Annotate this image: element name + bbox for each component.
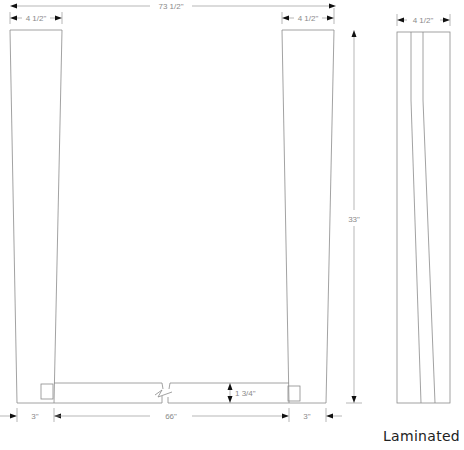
side-view-width-dimension: 4 1/2": [397, 14, 450, 26]
arrow-left-icon: [282, 16, 289, 21]
side-view-width-label: 4 1/2": [413, 16, 434, 25]
arrow-right-icon: [327, 16, 334, 21]
height-dimension: 33": [346, 30, 362, 403]
stretcher-thickness-dimension: 1 3/4": [228, 383, 256, 403]
right-leg-top-label: 4 1/2": [298, 14, 319, 23]
arrow-left-icon: [10, 4, 17, 9]
overall-width-dimension: 73 1/2": [10, 2, 336, 11]
arrow-up-icon: [352, 30, 357, 37]
break-symbol: [155, 390, 172, 397]
left-leg: [10, 30, 62, 403]
left-leg-top-dimension: 4 1/2": [10, 12, 62, 24]
arrow-left-icon: [397, 18, 404, 23]
drawing-caption: Laminated: [383, 428, 460, 444]
arrow-down-icon: [352, 396, 357, 403]
left-leg-top-label: 4 1/2": [26, 14, 47, 23]
arrow-right-icon: [282, 414, 289, 419]
arrow-right-icon: [329, 4, 336, 9]
height-label: 33": [348, 215, 360, 224]
right-leg-top-dimension: 4 1/2": [282, 8, 334, 24]
right-tenon: [288, 386, 300, 401]
arrow-left-icon: [326, 414, 333, 419]
right-bottom-width-label: 3": [303, 412, 310, 421]
arrow-right-icon: [55, 16, 62, 21]
overall-width-label: 73 1/2": [158, 2, 183, 11]
arrow-down-icon: [228, 396, 233, 403]
arrow-left-icon: [10, 16, 17, 21]
arrow-up-icon: [228, 383, 233, 390]
side-view-leg: [397, 32, 450, 403]
right-leg: [282, 30, 334, 403]
bottom-dimensions: 3" 66" 3": [0, 408, 342, 422]
stretcher-length-label: 66": [165, 412, 177, 421]
left-bottom-width-label: 3": [31, 412, 38, 421]
arrow-right-icon: [443, 18, 450, 23]
drawing-canvas: 73 1/2" 4 1/2" 4 1/2": [0, 0, 464, 450]
stretcher-thickness-label: 1 3/4": [235, 389, 256, 398]
left-tenon: [41, 384, 53, 399]
arrow-right-icon: [10, 414, 17, 419]
